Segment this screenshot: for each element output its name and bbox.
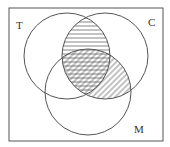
label-t: T	[16, 19, 23, 31]
venn-diagram: T C M	[0, 0, 170, 147]
label-c: C	[148, 16, 155, 28]
label-m: M	[134, 123, 144, 135]
